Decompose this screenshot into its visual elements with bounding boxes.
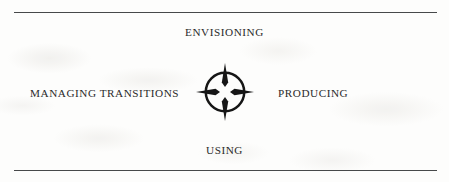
top-divider-rule: [14, 12, 437, 13]
bottom-divider-rule: [14, 170, 437, 171]
label-producing: PRODUCING: [278, 88, 348, 99]
label-managing-transitions: MANAGING TRANSITIONS: [30, 88, 179, 99]
label-using: USING: [0, 145, 449, 156]
figure-root: ENVISIONING MANAGING TRANSITIONS PRODUCI…: [0, 0, 449, 182]
compass-rose-icon: [193, 60, 257, 124]
label-envisioning: ENVISIONING: [0, 27, 449, 38]
